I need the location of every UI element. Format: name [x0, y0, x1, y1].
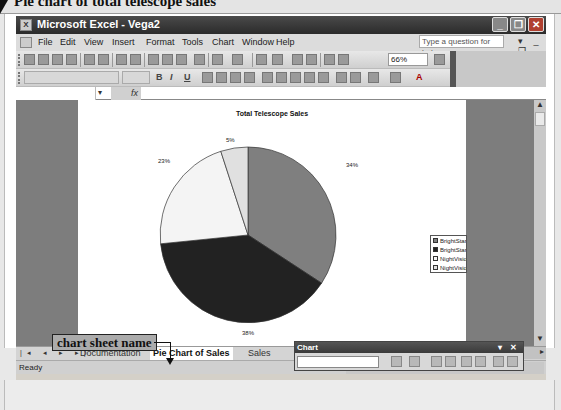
name-box[interactable] — [16, 87, 96, 100]
fx-icon[interactable]: fx — [111, 87, 141, 100]
percent-icon[interactable] — [276, 72, 287, 83]
figure-banner: Pie chart of total telescope sales — [0, 0, 561, 14]
menu-help[interactable]: Help — [276, 37, 295, 47]
tab-pie-chart-of-sales[interactable]: Pie Chart of Sales — [150, 347, 233, 360]
scroll-down-icon[interactable]: ▼ — [534, 334, 546, 346]
menu-view[interactable]: View — [84, 37, 103, 47]
comma-icon[interactable] — [290, 72, 301, 83]
toolbar-grip[interactable] — [18, 72, 20, 84]
chart-toolbar-controls[interactable]: ▾ ✕ — [498, 342, 520, 353]
help-search-input[interactable]: Type a question for help — [419, 35, 504, 48]
copy-icon[interactable] — [162, 54, 173, 65]
by-row-icon[interactable] — [461, 356, 472, 367]
menu-format[interactable]: Format — [146, 37, 175, 47]
chart-legend[interactable]: BrightStar 6 BrightStar 8 NightVision 12… — [430, 235, 467, 273]
new-icon[interactable] — [24, 54, 35, 65]
legend-swatch — [433, 256, 438, 261]
chart-type-icon[interactable] — [409, 356, 420, 367]
scroll-up-icon[interactable]: ▲ — [534, 100, 546, 112]
standard-toolbar: 66% — [16, 51, 456, 69]
save-icon[interactable] — [52, 54, 63, 65]
currency-icon[interactable] — [262, 72, 273, 83]
hyperlink-icon[interactable] — [256, 54, 267, 65]
fill-color-icon[interactable] — [390, 72, 401, 83]
format-painter-icon[interactable] — [194, 54, 205, 65]
excel-window: X Microsoft Excel - Vega2 _ ❐ ✕ File Edi… — [16, 16, 546, 380]
undo-icon[interactable] — [212, 54, 223, 65]
menu-window[interactable]: Window — [242, 37, 274, 47]
menu-edit[interactable]: Edit — [60, 37, 76, 47]
decrease-decimal-icon[interactable] — [318, 72, 329, 83]
align-right-icon[interactable] — [230, 72, 241, 83]
print-icon[interactable] — [84, 54, 95, 65]
menu-insert[interactable]: Insert — [112, 37, 135, 47]
format-chart-area-icon[interactable] — [391, 356, 402, 367]
bold-button[interactable]: B — [156, 72, 163, 82]
callout-label: chart sheet name — [52, 334, 157, 351]
print-preview-icon[interactable] — [98, 54, 109, 65]
legend-item: NightVision 12 — [431, 254, 466, 263]
legend-toggle-icon[interactable] — [431, 356, 442, 367]
menu-file[interactable]: File — [38, 37, 53, 47]
data-label-nightvision-16[interactable]: 5% — [226, 137, 235, 143]
sort-descending-icon[interactable] — [306, 54, 317, 65]
tab-sales[interactable]: Sales — [248, 347, 271, 360]
scroll-right-icon[interactable]: ▸ — [540, 347, 544, 356]
chart-toolbar-title: Chart — [297, 343, 318, 352]
toolbar-grip[interactable] — [18, 54, 20, 66]
align-left-icon[interactable] — [202, 72, 213, 83]
increase-decimal-icon[interactable] — [304, 72, 315, 83]
borders-icon[interactable] — [368, 72, 379, 83]
scroll-thumb[interactable] — [535, 112, 545, 126]
name-box-dropdown-icon[interactable]: ▾ — [98, 88, 102, 97]
window-title: Microsoft Excel - Vega2 — [37, 18, 160, 30]
callout-line — [154, 342, 170, 343]
data-label-brightstar-8[interactable]: 38% — [242, 330, 254, 336]
spelling-icon[interactable] — [116, 54, 127, 65]
font-color-button[interactable]: A — [416, 72, 423, 82]
research-icon[interactable] — [130, 54, 141, 65]
help-icon[interactable] — [434, 54, 445, 65]
permission-icon[interactable] — [66, 54, 77, 65]
zoom-select[interactable]: 66% — [388, 53, 428, 66]
cut-icon[interactable] — [148, 54, 159, 65]
toolbar-separator — [112, 53, 113, 67]
drawing-icon[interactable] — [338, 54, 349, 65]
redo-icon[interactable] — [232, 54, 243, 65]
italic-button[interactable]: I — [170, 72, 173, 82]
open-icon[interactable] — [38, 54, 49, 65]
increase-indent-icon[interactable] — [350, 72, 361, 83]
align-center-icon[interactable] — [216, 72, 227, 83]
legend-item: BrightStar 6 — [431, 236, 466, 245]
underline-button[interactable]: U — [184, 72, 191, 82]
menu-chart[interactable]: Chart — [212, 37, 234, 47]
restore-button[interactable]: ❐ — [510, 17, 526, 32]
vertical-scrollbar[interactable]: ▲ ▼ — [534, 100, 546, 346]
minimize-button[interactable]: _ — [492, 17, 508, 32]
font-select[interactable] — [24, 71, 119, 84]
figure-bottom — [4, 380, 555, 410]
decrease-indent-icon[interactable] — [336, 72, 347, 83]
chart-toolbar[interactable]: Chart ▾ ✕ — [294, 341, 524, 371]
angle-text-up-icon[interactable] — [507, 356, 518, 367]
paste-icon[interactable] — [176, 54, 187, 65]
data-table-icon[interactable] — [445, 356, 456, 367]
banner-title: Pie chart of total telescope sales — [14, 0, 216, 10]
excel-app-icon: X — [20, 19, 32, 31]
chart-wizard-icon[interactable] — [324, 54, 335, 65]
by-column-icon[interactable] — [475, 356, 486, 367]
menu-tools[interactable]: Tools — [182, 37, 203, 47]
data-label-brightstar-6[interactable]: 34% — [346, 162, 358, 168]
chart-objects-select[interactable] — [297, 356, 379, 368]
close-button[interactable]: ✕ — [528, 17, 544, 32]
document-icon[interactable] — [20, 37, 32, 48]
data-label-nightvision-12[interactable]: 23% — [158, 158, 170, 164]
autosum-icon[interactable] — [272, 54, 283, 65]
chart-toolbar-title-bar[interactable]: Chart ▾ ✕ — [295, 342, 523, 353]
chart-area[interactable]: Total Telescope Sales 34% 38% 23% 5% Bri… — [78, 100, 466, 346]
font-size-select[interactable] — [122, 71, 150, 84]
sort-ascending-icon[interactable] — [292, 54, 303, 65]
angle-text-down-icon[interactable] — [493, 356, 504, 367]
pie-chart[interactable] — [78, 100, 466, 346]
merge-center-icon[interactable] — [244, 72, 255, 83]
